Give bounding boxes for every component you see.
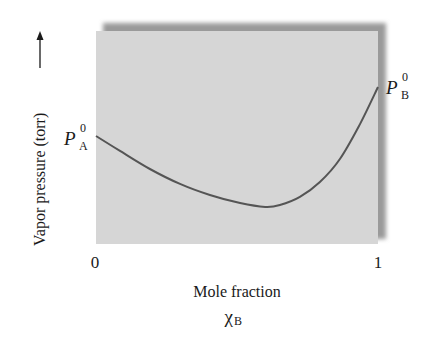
x-axis-label: Mole fraction [193,283,281,300]
pb0-sub: B [401,88,409,102]
annotation-pb0: P 0 B [385,70,409,102]
x-axis-symbol: χ B [224,306,242,328]
pb0-base: P [385,77,398,98]
chi-subscript: B [234,314,242,328]
svg-text:P: P [385,77,398,98]
x-tick-1: 1 [374,253,383,272]
x-tick-0: 0 [91,253,100,272]
svg-text:P: P [63,128,76,149]
plot-area [96,31,378,244]
pa0-base: P [63,128,76,149]
vapor-pressure-chart: P 0 A P 0 B 0 1 Mole fraction χ B Vapor … [0,0,425,340]
y-axis-label-group: Vapor pressure (torr) [31,113,49,246]
chi-symbol: χ [224,306,234,327]
pb0-sup: 0 [402,70,408,84]
annotation-pa0: P 0 A [63,121,88,153]
pa0-sub: A [79,139,88,153]
pa0-sup: 0 [80,121,86,135]
y-axis-label: Vapor pressure (torr) [31,113,49,246]
y-axis-arrow-icon [37,31,44,68]
